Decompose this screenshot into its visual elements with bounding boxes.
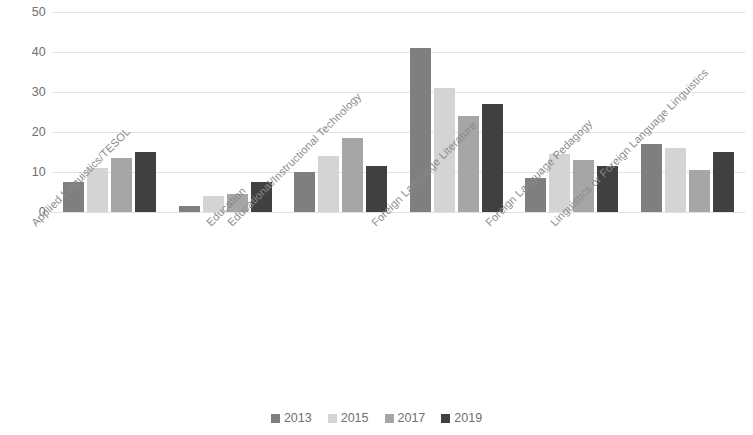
gridline [52, 212, 745, 213]
bar-groups [52, 12, 745, 212]
bar [713, 152, 734, 212]
chart-legend: 2013201520172019 [0, 412, 753, 425]
bar [482, 104, 503, 212]
legend-item[interactable]: 2013 [271, 412, 312, 425]
legend-item[interactable]: 2019 [441, 412, 482, 425]
bar [665, 148, 686, 212]
legend-swatch-icon [385, 414, 394, 423]
legend-label: 2013 [284, 412, 312, 425]
y-axis-tick-label: 50 [6, 6, 46, 19]
legend-item[interactable]: 2015 [328, 412, 369, 425]
bar [318, 156, 339, 212]
bar [111, 158, 132, 212]
bar [179, 206, 200, 212]
legend-item[interactable]: 2017 [385, 412, 426, 425]
legend-label: 2019 [454, 412, 482, 425]
bar [641, 144, 662, 212]
bar [135, 152, 156, 212]
y-axis-tick-label: 30 [6, 86, 46, 99]
y-axis-tick-label: 20 [6, 126, 46, 139]
y-axis-tick-label: 40 [6, 46, 46, 59]
legend-swatch-icon [441, 414, 450, 423]
legend-swatch-icon [328, 414, 337, 423]
bar [342, 138, 363, 212]
bar-chart: 01020304050 Applied Linguistics/TESOLEdu… [0, 0, 753, 435]
legend-label: 2017 [398, 412, 426, 425]
x-axis-category-labels: Applied Linguistics/TESOLEducationEducat… [0, 214, 753, 394]
legend-swatch-icon [271, 414, 280, 423]
bar-group [630, 12, 746, 212]
y-axis-tick-label: 10 [6, 166, 46, 179]
legend-label: 2015 [341, 412, 369, 425]
bar [689, 170, 710, 212]
bar [294, 172, 315, 212]
